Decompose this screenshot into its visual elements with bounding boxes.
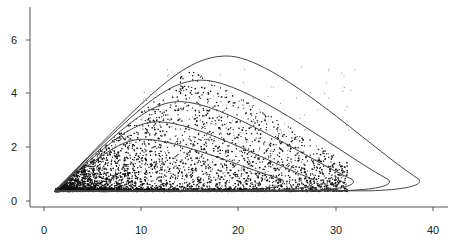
x-tick-label-20: 20 bbox=[232, 224, 244, 236]
scatter-chart: 0 2 4 6 0 10 20 30 40 bbox=[0, 0, 457, 245]
y-tick-label-0: 0 bbox=[11, 195, 17, 207]
y-tick-label-4: 4 bbox=[11, 87, 17, 99]
y-tick-label-2: 2 bbox=[11, 141, 17, 153]
x-axis-ticks: 0 10 20 30 40 bbox=[41, 207, 439, 236]
x-tick-label-40: 40 bbox=[427, 224, 439, 236]
x-tick-label-30: 30 bbox=[330, 224, 342, 236]
y-axis-ticks: 0 2 4 6 bbox=[11, 34, 30, 207]
x-tick-label-10: 10 bbox=[135, 224, 147, 236]
curve-5 bbox=[55, 56, 420, 191]
envelope-curves bbox=[55, 56, 420, 191]
y-tick-label-6: 6 bbox=[11, 34, 17, 46]
scatter-points bbox=[55, 66, 356, 192]
x-tick-label-0: 0 bbox=[41, 224, 47, 236]
